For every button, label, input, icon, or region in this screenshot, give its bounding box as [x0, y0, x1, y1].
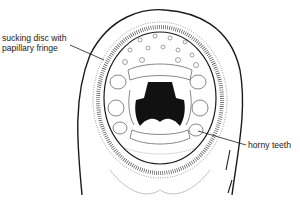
- lamprey-mouth-illustration: [0, 0, 300, 206]
- label-line: sucking disc with: [2, 33, 66, 43]
- label-horny-teeth: horny teeth: [248, 140, 291, 150]
- label-line: papillary fringe: [2, 43, 66, 53]
- label-sucking-disc: sucking disc with papillary fringe: [2, 33, 66, 53]
- label-line: horny teeth: [248, 140, 291, 150]
- oral-opening: [135, 82, 185, 126]
- leader-line-disc: [70, 45, 104, 60]
